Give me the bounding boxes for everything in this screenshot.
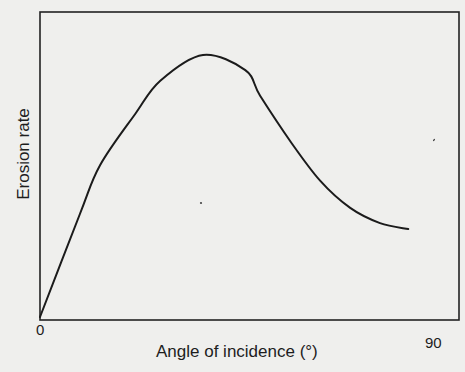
scan-speck	[433, 138, 436, 141]
x-tick-90: 90	[425, 334, 442, 351]
x-tick-0: 0	[36, 321, 44, 338]
erosion-curve	[40, 55, 408, 317]
plot-frame	[40, 12, 459, 320]
scan-speck	[200, 202, 202, 204]
x-axis-title: Angle of incidence (°)	[156, 342, 318, 361]
y-axis-title: Erosion rate	[14, 108, 33, 200]
erosion-rate-chart: Erosion rate 0 90 Angle of incidence (°)	[0, 0, 465, 372]
